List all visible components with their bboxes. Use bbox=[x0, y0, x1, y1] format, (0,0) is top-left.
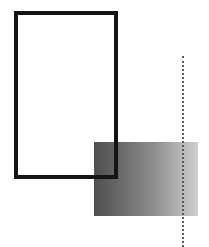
dotted-vertical-line bbox=[182, 56, 184, 247]
outline-rectangle bbox=[14, 11, 118, 179]
